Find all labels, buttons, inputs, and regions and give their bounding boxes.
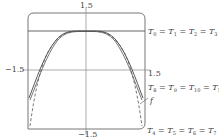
x-left-label: −1.5 <box>5 66 24 74</box>
frame-box <box>28 13 145 129</box>
diagram-canvas <box>0 0 219 139</box>
y-top-label: 1.5 <box>80 2 93 10</box>
x-right-label: 1.5 <box>148 70 161 78</box>
label-t8-t11: T8 = T9 = T10 = T11 <box>148 84 219 94</box>
label-t0-t3: T0 = T1 = T2 = T3 <box>148 28 218 38</box>
label-t4-t7: T4 = T5 = T6 = T7 <box>147 127 217 137</box>
label-f: f <box>150 97 153 105</box>
y-bottom-label: −1.5 <box>78 131 97 139</box>
